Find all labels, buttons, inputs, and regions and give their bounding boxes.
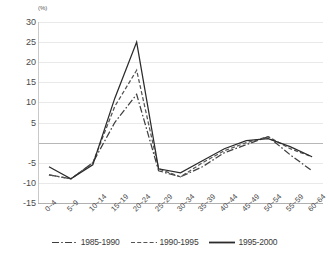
y-tick-label: 5 (2, 118, 36, 128)
y-tick-label: 10 (2, 97, 36, 107)
y-tick-label: 20 (2, 57, 36, 67)
legend-item-1995-2000[interactable]: 1995-2000 (209, 237, 277, 247)
y-tick-label: -10 (2, 178, 36, 188)
y-axis-tick-labels: 30252015105-5-10-15 (0, 0, 36, 255)
legend-label: 1995-2000 (238, 237, 277, 247)
series-line-1995-2000 (49, 42, 312, 179)
y-tick-label: 15 (2, 77, 36, 87)
chart-legend: 1985-19901990-19951995-2000 (0, 237, 329, 247)
y-tick-label: 30 (2, 17, 36, 27)
y-tick-label: 25 (2, 37, 36, 47)
legend-swatch-icon (52, 239, 78, 246)
series-line-1990-1995 (49, 70, 312, 179)
y-tick-label: -15 (2, 198, 36, 208)
y-axis-unit-label: (%) (38, 5, 47, 11)
legend-item-1990-1995[interactable]: 1990-1995 (131, 237, 199, 247)
plot-area (38, 22, 323, 203)
legend-label: 1985-1990 (81, 237, 120, 247)
legend-swatch-icon (131, 239, 157, 246)
line-chart: (%) 30252015105-5-10-15 0~45~910~1415~19… (0, 0, 329, 255)
legend-item-1985-1990[interactable]: 1985-1990 (52, 237, 120, 247)
legend-swatch-icon (209, 239, 235, 246)
y-tick-label: -5 (2, 158, 36, 168)
legend-label: 1990-1995 (160, 237, 199, 247)
series-lines (38, 22, 323, 203)
